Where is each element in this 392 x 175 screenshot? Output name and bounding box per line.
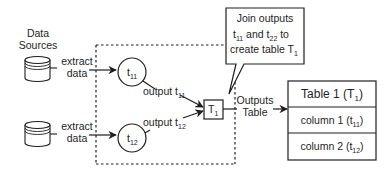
edge-label-t12: output t12 — [143, 116, 186, 130]
extract-data-label-1b: data — [67, 67, 88, 79]
node-t11: t11 — [118, 58, 146, 86]
svg-text:create table T1: create table T1 — [230, 43, 298, 57]
edge-t12-to-T1 — [183, 111, 203, 118]
table-title: Table 1 (T1) — [301, 87, 363, 103]
node-t12: t12 — [118, 124, 146, 152]
output-table: Table 1 (T1) column 1 (t11) column 2 (t1… — [288, 81, 376, 160]
extract-data-label-1: extract — [61, 55, 93, 67]
outputs-table-label-2: Table — [242, 106, 267, 118]
extract-data-label-2: extract — [61, 120, 93, 132]
svg-text:Join outputs: Join outputs — [237, 12, 294, 24]
data-sources-label: Data — [27, 27, 49, 39]
database-icon — [25, 57, 50, 82]
data-sources-label-2: Sources — [19, 39, 58, 51]
database-icon — [25, 122, 50, 147]
edge-label-t11: output t11 — [143, 85, 185, 99]
outputs-table-label: Outputs — [237, 94, 274, 106]
etl-diagram: Data Sources extract data extract data t… — [0, 0, 392, 175]
extract-data-label-2b: data — [67, 132, 88, 144]
node-T1: T1 — [204, 100, 223, 119]
